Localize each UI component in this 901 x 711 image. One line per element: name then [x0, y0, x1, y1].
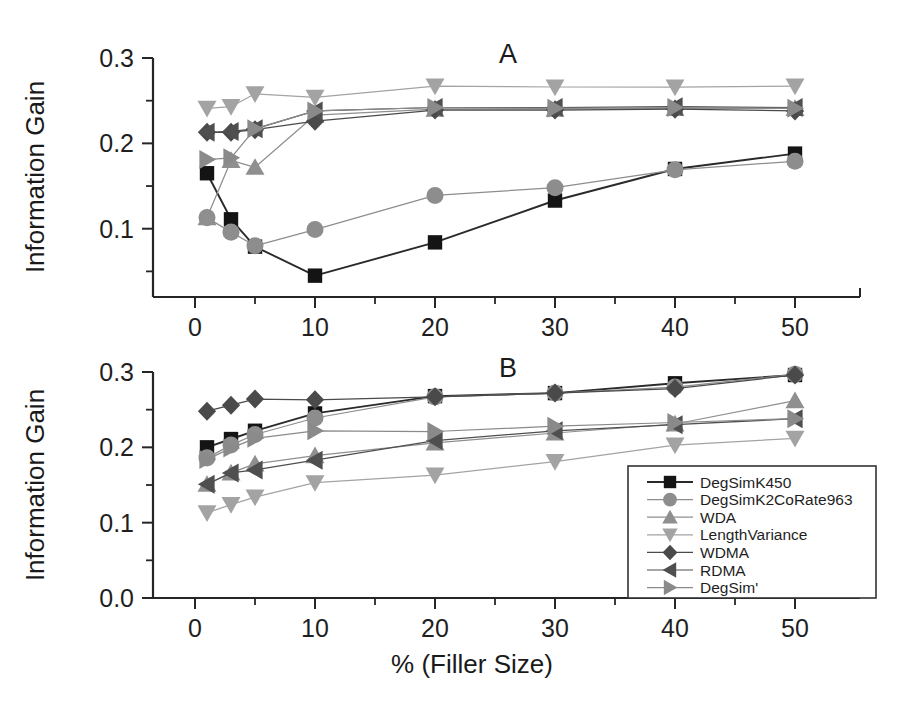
data-point — [306, 221, 323, 238]
series-line — [207, 108, 795, 160]
x-tick-label: 50 — [781, 313, 809, 341]
data-point — [308, 268, 322, 282]
y-tick-label: 0.2 — [99, 129, 134, 157]
data-point — [246, 390, 264, 409]
data-point — [786, 153, 803, 170]
y-tick-label: 0.0 — [99, 584, 134, 612]
data-point — [426, 187, 443, 204]
series-layer — [198, 79, 805, 283]
y-axis-title-panel-b: Information Gain — [20, 389, 50, 581]
data-point — [546, 79, 565, 96]
data-point — [786, 392, 805, 409]
series-line — [207, 109, 795, 132]
series-rdma — [198, 97, 803, 142]
data-point — [666, 79, 685, 96]
x-tick-label: 0 — [188, 614, 202, 642]
series-line — [207, 419, 795, 460]
chart-legend[interactable]: DegSimK450DegSimK2CoRate963WDALengthVari… — [628, 466, 876, 598]
y-tick-label: 0.3 — [99, 44, 134, 72]
x-tick-label: 50 — [781, 614, 809, 642]
data-point — [428, 235, 442, 249]
panel-letter: A — [499, 39, 517, 69]
series-line — [207, 86, 795, 108]
data-point — [246, 489, 265, 506]
data-point — [198, 505, 217, 522]
data-point — [198, 101, 217, 118]
legend-label: DegSim' — [700, 579, 758, 596]
y-tick-label: 0.2 — [99, 433, 134, 461]
legend-label: WDMA — [700, 544, 750, 561]
series-wda — [198, 99, 805, 225]
series-degsimk2corate963 — [198, 153, 803, 255]
data-point — [666, 161, 683, 178]
x-tick-label: 30 — [541, 614, 569, 642]
legend-label: LengthVariance — [700, 526, 807, 543]
series-degsim — [199, 409, 804, 469]
x-tick-label: 10 — [301, 313, 329, 341]
x-tick-label: 40 — [661, 313, 689, 341]
series-lengthvariance — [198, 79, 805, 118]
data-point — [222, 224, 239, 241]
legend-item-degsimk450[interactable]: DegSimK450 — [647, 474, 792, 491]
data-point — [198, 402, 216, 421]
legend-marker-square-icon — [664, 476, 676, 488]
data-point — [246, 237, 263, 254]
x-tick-label: 0 — [188, 313, 202, 341]
x-tick-label: 40 — [661, 614, 689, 642]
series-line — [207, 154, 795, 276]
series-line — [207, 161, 795, 246]
chart-svg: 0.10.20.301020304050A 0.00.10.20.3010203… — [0, 0, 901, 711]
y-tick-label: 0.1 — [99, 215, 134, 243]
data-point — [200, 166, 214, 180]
series-line — [207, 375, 795, 447]
figure-container: 0.10.20.301020304050A 0.00.10.20.3010203… — [0, 0, 901, 711]
legend-label: WDA — [700, 509, 737, 526]
data-point — [306, 475, 325, 492]
y-tick-label: 0.1 — [99, 509, 134, 537]
x-axis-title: % (Filler Size) — [391, 649, 553, 679]
data-point — [222, 396, 240, 415]
panel-letter: B — [499, 353, 517, 383]
series-line — [207, 374, 795, 458]
x-tick-label: 30 — [541, 313, 569, 341]
series-wdma — [198, 100, 804, 142]
y-axis-title-panel-a: Information Gain — [20, 81, 50, 273]
legend-label: DegSimK2CoRate963 — [700, 491, 853, 508]
panel-a: 0.10.20.301020304050A — [99, 39, 860, 341]
x-tick-label: 20 — [421, 614, 449, 642]
data-point — [786, 79, 805, 96]
legend-label: RDMA — [700, 562, 746, 579]
x-tick-label: 20 — [421, 313, 449, 341]
series-line — [207, 108, 795, 217]
legend-label: DegSimK450 — [700, 474, 792, 491]
y-tick-label: 0.3 — [99, 358, 134, 386]
data-point — [546, 179, 563, 196]
data-point — [246, 158, 265, 175]
legend-marker-circle-icon — [663, 493, 677, 507]
data-point — [222, 497, 241, 514]
x-tick-label: 10 — [301, 614, 329, 642]
